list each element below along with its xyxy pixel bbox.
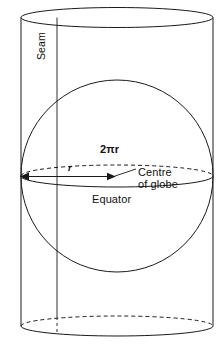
centre-leader-line	[115, 169, 136, 176]
radius-arrowhead-right	[107, 173, 116, 180]
equator-back-arc	[21, 165, 213, 176]
label-seam: Seam	[36, 10, 48, 60]
label-circumference-2-pi-r: 2πr	[100, 143, 119, 155]
label-centre-line1: Centre	[138, 166, 172, 178]
figure-drawing	[0, 0, 224, 351]
equator-front-arc	[21, 176, 213, 187]
cylinder-bottom-ellipse-back-arc	[21, 316, 213, 326]
label-centre-of-globe: Centreof globe	[138, 166, 178, 191]
label-equator: Equator	[92, 193, 131, 205]
label-radius-r: r	[68, 163, 72, 174]
cylinder-bottom-ellipse-front-arc	[21, 326, 213, 336]
label-centre-line2: of globe	[138, 178, 178, 190]
cylinder-top-ellipse	[21, 8, 213, 28]
figure-globe-in-cylinder: Seam 2πr r Centreof globe Equator	[0, 0, 224, 351]
